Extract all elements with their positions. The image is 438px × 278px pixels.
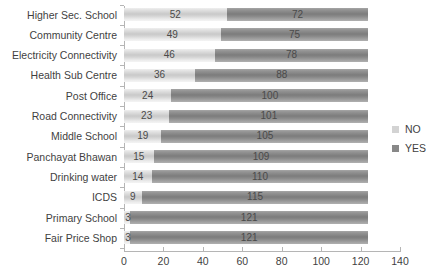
y-axis-tick xyxy=(120,45,124,46)
y-axis-tick xyxy=(120,126,124,127)
x-axis-tick xyxy=(400,247,401,251)
bar-row: Road Connectivity23101 xyxy=(124,110,400,123)
data-label-yes: 78 xyxy=(286,50,297,60)
chart-legend: NOYES xyxy=(392,122,426,160)
legend-item[interactable]: YES xyxy=(392,141,426,156)
stacked-bar-chart: Higher Sec. School5272Community Centre49… xyxy=(0,0,438,278)
x-axis-line xyxy=(124,251,401,252)
legend-label: NO xyxy=(405,124,421,135)
x-axis-tick-label: 140 xyxy=(391,256,409,267)
data-label-yes: 121 xyxy=(241,233,258,243)
y-axis-tick xyxy=(120,106,124,107)
data-label-yes: 100 xyxy=(262,91,279,101)
y-axis-tick xyxy=(120,208,124,209)
category-label: Higher Sec. School xyxy=(27,9,117,20)
data-label-yes: 105 xyxy=(257,131,274,141)
x-axis-tick-label: 40 xyxy=(197,256,209,267)
data-label-no: 3 xyxy=(125,213,131,223)
bar-row: Middle School19105 xyxy=(124,130,400,143)
data-label-no: 3 xyxy=(125,233,131,243)
category-label: Panchayat Bhawan xyxy=(27,151,117,162)
x-axis-tick-label: 0 xyxy=(121,256,127,267)
legend-label: YES xyxy=(405,143,426,154)
plot-area: Higher Sec. School5272Community Centre49… xyxy=(124,6,400,251)
data-label-no: 23 xyxy=(141,111,152,121)
x-axis-tick xyxy=(242,247,243,251)
y-axis-tick xyxy=(120,65,124,66)
y-axis-tick xyxy=(120,5,124,6)
bar-row: Primary School3121 xyxy=(124,211,400,224)
category-label: Community Centre xyxy=(29,30,117,41)
data-label-no: 36 xyxy=(154,70,165,80)
bar-row: Post Office24100 xyxy=(124,89,400,102)
data-label-yes: 115 xyxy=(247,192,263,202)
data-label-yes: 110 xyxy=(252,172,268,182)
bar-row: Panchayat Bhawan15109 xyxy=(124,150,400,163)
data-label-yes: 121 xyxy=(241,213,258,223)
y-axis-tick xyxy=(120,167,124,168)
y-axis-tick xyxy=(120,147,124,148)
category-label: Fair Price Shop xyxy=(45,233,117,244)
category-label: Middle School xyxy=(51,131,117,142)
bar-row: Electricity Connectivity4678 xyxy=(124,49,400,62)
data-label-no: 24 xyxy=(142,91,153,101)
x-axis-tick xyxy=(321,247,322,251)
x-axis-tick xyxy=(203,247,204,251)
bar-row: ICDS9115 xyxy=(124,191,400,204)
x-axis-tick-label: 60 xyxy=(236,256,248,267)
y-axis-tick xyxy=(120,228,124,229)
bar-row: Higher Sec. School5272 xyxy=(124,8,400,21)
x-axis-tick xyxy=(282,247,283,251)
category-label: Road Connectivity xyxy=(32,111,117,122)
y-axis-tick xyxy=(120,187,124,188)
data-label-yes: 109 xyxy=(253,152,270,162)
category-label: Electricity Connectivity xyxy=(12,50,117,61)
x-axis-tick xyxy=(124,247,125,251)
y-axis-tick xyxy=(120,86,124,87)
category-label: ICDS xyxy=(92,192,117,203)
data-label-no: 15 xyxy=(133,152,144,162)
x-axis-tick-label: 100 xyxy=(312,256,330,267)
category-label: Post Office xyxy=(66,90,117,101)
data-label-no: 14 xyxy=(132,172,143,182)
x-axis-tick-label: 120 xyxy=(352,256,370,267)
category-label: Health Sub Centre xyxy=(31,70,117,81)
bar-row: Fair Price Shop3121 xyxy=(124,231,400,244)
data-label-yes: 72 xyxy=(292,10,303,20)
data-label-no: 19 xyxy=(137,131,148,141)
x-axis-tick xyxy=(163,247,164,251)
data-label-yes: 75 xyxy=(289,30,300,40)
data-label-yes: 88 xyxy=(276,70,287,80)
bar-row: Health Sub Centre3688 xyxy=(124,69,400,82)
data-label-no: 52 xyxy=(170,10,181,20)
y-axis-tick xyxy=(120,25,124,26)
category-label: Drinking water xyxy=(50,172,117,183)
legend-swatch-icon xyxy=(392,126,399,133)
x-axis-tick-label: 80 xyxy=(276,256,288,267)
category-label: Primary School xyxy=(46,212,117,223)
data-label-no: 9 xyxy=(130,192,136,202)
legend-item[interactable]: NO xyxy=(392,122,426,137)
bar-row: Drinking water14110 xyxy=(124,170,400,183)
x-axis-tick xyxy=(361,247,362,251)
bar-row: Community Centre4975 xyxy=(124,28,400,41)
data-label-yes: 101 xyxy=(261,111,278,121)
data-label-no: 49 xyxy=(167,30,178,40)
x-axis-tick-label: 20 xyxy=(158,256,170,267)
data-label-no: 46 xyxy=(164,50,175,60)
legend-swatch-icon xyxy=(392,145,399,152)
